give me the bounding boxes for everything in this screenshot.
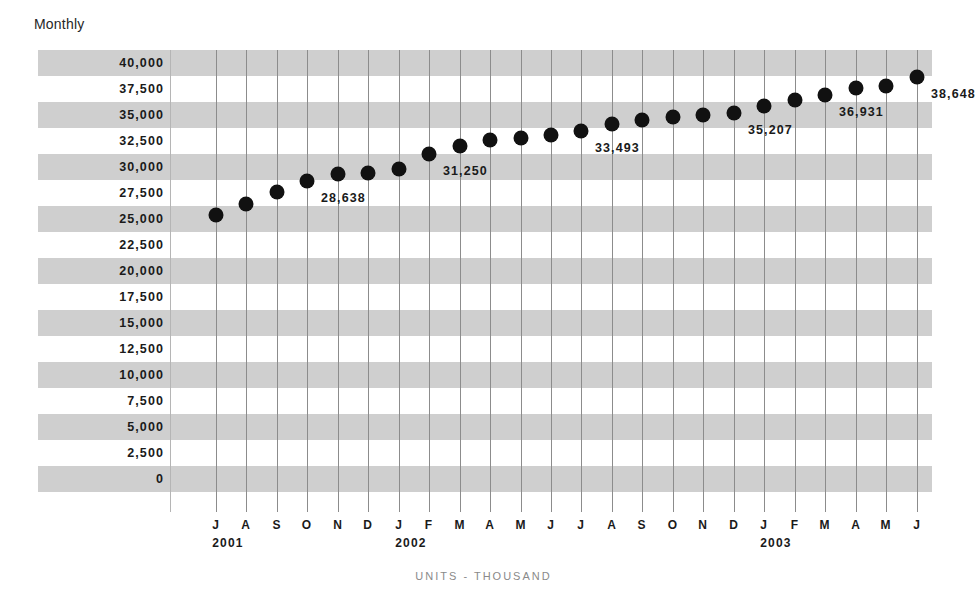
data-point-marker: [818, 87, 833, 102]
data-point-marker: [910, 70, 925, 85]
y-axis-tick-label: 35,000: [32, 108, 164, 122]
vertical-gridline: [216, 50, 217, 512]
x-axis-month-label: N: [333, 518, 343, 532]
x-axis-month-label: S: [272, 518, 281, 532]
data-point-marker: [635, 113, 650, 128]
vertical-gridline: [338, 50, 339, 512]
x-axis-month-label: A: [485, 518, 495, 532]
vertical-gridline: [795, 50, 796, 512]
data-point-marker: [514, 130, 529, 145]
y-axis-tick-label: 40,000: [32, 56, 164, 70]
y-axis-tick-label: 12,500: [32, 342, 164, 356]
x-axis-month-label: D: [363, 518, 373, 532]
data-point-value-label: 36,931: [839, 105, 884, 119]
data-point-marker: [696, 108, 711, 123]
plot-area: 28,63831,25033,49335,20736,93138,648: [170, 50, 932, 512]
y-axis-tick-label: 2,500: [32, 446, 164, 460]
data-point-marker: [544, 127, 559, 142]
data-point-marker: [605, 117, 620, 132]
data-point-marker: [453, 139, 468, 154]
data-point-marker: [331, 167, 346, 182]
x-axis-month-label: N: [698, 518, 708, 532]
data-point-marker: [209, 207, 224, 222]
data-point-value-label: 31,250: [443, 164, 488, 178]
x-axis-labels: JASONDJFMAMJJASONDJFMAMJ200120022003: [170, 512, 932, 562]
vertical-gridline: [886, 50, 887, 512]
data-point-marker: [392, 162, 407, 177]
x-axis-month-label: S: [637, 518, 646, 532]
data-point-marker: [239, 197, 254, 212]
x-axis-month-label: J: [577, 518, 585, 532]
plot-left-edge: [170, 50, 171, 512]
x-axis-month-label: J: [760, 518, 768, 532]
y-axis-tick-label: 37,500: [32, 82, 164, 96]
x-axis-month-label: J: [913, 518, 921, 532]
vertical-gridline: [490, 50, 491, 512]
x-axis-month-label: J: [395, 518, 403, 532]
vertical-gridline: [399, 50, 400, 512]
x-axis-month-label: M: [881, 518, 892, 532]
y-axis-tick-label: 7,500: [32, 394, 164, 408]
y-axis-tick-label: 15,000: [32, 316, 164, 330]
data-point-marker: [270, 184, 285, 199]
vertical-gridline: [825, 50, 826, 512]
x-axis-year-label: 2001: [212, 536, 244, 550]
vertical-gridline: [856, 50, 857, 512]
data-point-value-label: 35,207: [748, 123, 793, 137]
x-axis-month-label: F: [425, 518, 433, 532]
x-axis-year-label: 2002: [395, 536, 427, 550]
x-axis-month-label: J: [547, 518, 555, 532]
x-axis-month-label: A: [607, 518, 617, 532]
vertical-gridline: [277, 50, 278, 512]
y-axis-tick-label: 17,500: [32, 290, 164, 304]
vertical-gridline: [551, 50, 552, 512]
vertical-gridline: [764, 50, 765, 512]
y-axis-labels: 40,00037,50035,00032,50030,00027,50025,0…: [24, 50, 164, 512]
vertical-gridline: [368, 50, 369, 512]
y-axis-tick-label: 32,500: [32, 134, 164, 148]
x-axis-month-label: M: [820, 518, 831, 532]
data-point-marker: [361, 166, 376, 181]
x-axis-month-label: A: [241, 518, 251, 532]
data-point-marker: [422, 147, 437, 162]
data-point-marker: [727, 105, 742, 120]
data-point-marker: [788, 93, 803, 108]
x-axis-month-label: A: [851, 518, 861, 532]
vertical-gridline: [429, 50, 430, 512]
data-point-marker: [757, 98, 772, 113]
data-point-value-label: 28,638: [321, 191, 366, 205]
y-axis-tick-label: 10,000: [32, 368, 164, 382]
data-point-marker: [300, 174, 315, 189]
y-axis-tick-label: 22,500: [32, 238, 164, 252]
x-axis-month-label: M: [516, 518, 527, 532]
vertical-gridline: [307, 50, 308, 512]
y-axis-tick-label: 25,000: [32, 212, 164, 226]
data-point-marker: [574, 123, 589, 138]
vertical-gridline: [581, 50, 582, 512]
x-axis-month-label: M: [455, 518, 466, 532]
vertical-gridline: [246, 50, 247, 512]
data-point-marker: [483, 132, 498, 147]
y-axis-tick-label: 20,000: [32, 264, 164, 278]
y-axis-tick-label: 30,000: [32, 160, 164, 174]
y-axis-tick-label: 0: [32, 472, 164, 486]
vertical-gridline: [917, 50, 918, 512]
x-axis-month-label: O: [668, 518, 678, 532]
x-axis-month-label: D: [729, 518, 739, 532]
chart-footer-note: UNITS - THOUSAND: [0, 570, 967, 582]
vertical-gridline: [460, 50, 461, 512]
y-axis-tick-label: 5,000: [32, 420, 164, 434]
data-point-marker: [849, 80, 864, 95]
y-axis-tick-label: 27,500: [32, 186, 164, 200]
x-axis-month-label: F: [791, 518, 799, 532]
data-point-value-label: 33,493: [595, 141, 640, 155]
chart-title: Monthly: [34, 16, 84, 32]
data-point-marker: [666, 110, 681, 125]
data-point-marker: [879, 78, 894, 93]
x-axis-month-label: J: [212, 518, 220, 532]
x-axis-year-label: 2003: [760, 536, 792, 550]
x-axis-month-label: O: [302, 518, 312, 532]
vertical-gridline: [521, 50, 522, 512]
data-point-value-label: 38,648: [931, 87, 976, 101]
